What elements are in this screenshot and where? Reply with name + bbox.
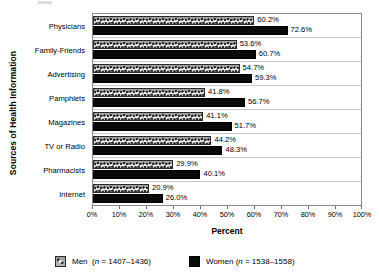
bar-men	[93, 136, 211, 145]
category-label: Advertising	[18, 62, 88, 86]
bar-value-label-men: 54.7%	[243, 63, 265, 72]
x-tick	[281, 206, 282, 209]
x-tick-label: 40%	[193, 210, 208, 219]
bar-row: 20.9%26.0%	[93, 182, 361, 205]
x-tick	[361, 206, 362, 209]
crop-artifact	[38, 1, 52, 4]
bar-men	[93, 64, 240, 73]
bar-value-label-women: 51.7%	[235, 121, 257, 130]
bar-value-label-women: 56.7%	[248, 97, 270, 106]
bar-chart-figure: Sources of Health Information Physicians…	[0, 0, 379, 277]
bar-men	[93, 88, 205, 97]
bar-women	[93, 170, 200, 179]
category-label: Pamphlets	[18, 86, 88, 110]
legend-swatch-men-icon	[55, 256, 66, 267]
bar-row: 53.6%60.7%	[93, 38, 361, 62]
bar-value-label-women: 26.0%	[166, 193, 188, 202]
legend-label-men: Men	[72, 257, 88, 266]
category-label: Magazines	[18, 110, 88, 134]
bar-women	[93, 146, 222, 155]
bar-men	[93, 184, 149, 193]
category-label: TV or Radio	[18, 134, 88, 158]
bar-rows: 60.2%72.6%53.6%60.7%54.7%59.3%41.8%56.7%…	[93, 14, 361, 205]
bar-men	[93, 40, 237, 49]
legend-item-women: Women (n = 1538–1558)	[189, 256, 295, 267]
legend-n-men: (n = 1407–1436)	[92, 257, 151, 266]
legend-swatch-women-icon	[189, 256, 200, 267]
bar-value-label-women: 72.6%	[291, 25, 313, 34]
bar-row: 41.8%56.7%	[93, 86, 361, 110]
bar-women	[93, 194, 163, 203]
bar-row: 54.7%59.3%	[93, 62, 361, 86]
bar-men	[93, 112, 203, 121]
x-tick-label: 90%	[328, 210, 343, 219]
bar-value-label-women: 40.1%	[203, 169, 225, 178]
bar-row: 29.9%40.1%	[93, 158, 361, 182]
category-label: Physicians	[18, 14, 88, 38]
bar-value-label-men: 60.2%	[257, 15, 279, 24]
bar-value-label-women: 59.3%	[255, 73, 277, 82]
x-tick-label: 30%	[166, 210, 181, 219]
x-tick	[254, 206, 255, 209]
x-tick	[146, 206, 147, 209]
x-tick	[335, 206, 336, 209]
x-tick-label: 70%	[274, 210, 289, 219]
bar-row: 60.2%72.6%	[93, 14, 361, 38]
x-tick-label: 0%	[87, 210, 98, 219]
x-tick-label: 50%	[220, 210, 235, 219]
x-tick	[227, 206, 228, 209]
x-axis-tick-labels: 0%10%20%30%40%50%60%70%80%90%100%	[92, 210, 362, 222]
y-axis-title: Sources of Health Information	[8, 8, 18, 218]
bar-value-label-men: 41.1%	[206, 111, 228, 120]
bar-women	[93, 74, 252, 83]
x-axis-title: Percent	[92, 226, 362, 236]
x-tick-label: 10%	[112, 210, 127, 219]
bar-women	[93, 26, 288, 35]
bar-men	[93, 16, 254, 25]
legend-n-women: (n = 1538–1558)	[236, 257, 295, 266]
bar-value-label-men: 29.9%	[176, 159, 198, 168]
bar-value-label-men: 53.6%	[240, 39, 262, 48]
bar-value-label-women: 60.7%	[259, 49, 281, 58]
bar-women	[93, 122, 232, 131]
plot-area: 60.2%72.6%53.6%60.7%54.7%59.3%41.8%56.7%…	[92, 13, 362, 206]
category-label: Internet	[18, 182, 88, 206]
legend-label-women: Women	[206, 257, 233, 266]
x-tick	[119, 206, 120, 209]
x-tick	[92, 206, 93, 209]
bar-value-label-men: 41.8%	[208, 87, 230, 96]
bar-men	[93, 160, 173, 169]
category-labels: PhysiciansFamily-FriendsAdvertisingPamph…	[18, 14, 88, 206]
x-tick	[200, 206, 201, 209]
x-tick	[173, 206, 174, 209]
x-tick	[308, 206, 309, 209]
x-tick-label: 20%	[139, 210, 154, 219]
x-tick-label: 60%	[247, 210, 262, 219]
bar-women	[93, 50, 256, 59]
category-label: Pharmacists	[18, 158, 88, 182]
x-tick-label: 80%	[301, 210, 316, 219]
bar-women	[93, 98, 245, 107]
x-tick-label: 100%	[353, 210, 372, 219]
bar-row: 41.1%51.7%	[93, 110, 361, 134]
bar-value-label-men: 44.2%	[214, 135, 236, 144]
chart-legend: Men (n = 1407–1436) Women (n = 1538–1558…	[55, 252, 355, 270]
category-label: Family-Friends	[18, 38, 88, 62]
bar-value-label-women: 48.3%	[225, 145, 247, 154]
bar-value-label-men: 20.9%	[152, 183, 174, 192]
legend-item-men: Men (n = 1407–1436)	[55, 256, 151, 267]
bar-row: 44.2%48.3%	[93, 134, 361, 158]
